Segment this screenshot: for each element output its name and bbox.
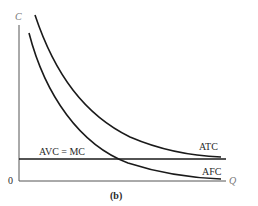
origin-label: 0 — [8, 175, 13, 186]
afc-label: AFC — [202, 166, 222, 177]
x-axis-label: Q — [229, 175, 237, 186]
cost-curves-diagram: C Q 0 AVC = MC ATC AFC (b) — [0, 0, 258, 206]
afc-curve — [29, 33, 221, 179]
y-axis-label: C — [15, 11, 22, 22]
avc-mc-label: AVC = MC — [39, 146, 85, 157]
figure-caption: (b) — [110, 190, 122, 202]
atc-label: ATC — [199, 141, 218, 152]
atc-curve — [35, 15, 221, 157]
